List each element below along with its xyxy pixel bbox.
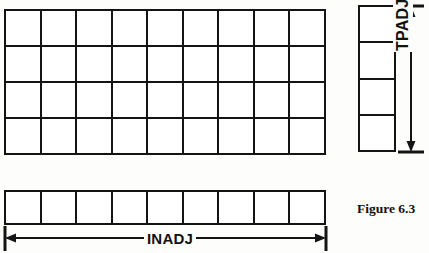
arrowhead-right-icon	[315, 234, 326, 243]
inadj-cell-row	[4, 190, 326, 225]
grid-cell	[255, 47, 291, 83]
grid-cell	[42, 192, 78, 225]
grid-cell	[42, 83, 78, 119]
inadj-label: INADJ	[144, 230, 196, 247]
tpadj-cell-column	[358, 5, 396, 152]
grid-cell	[148, 11, 184, 47]
grid-cell	[148, 192, 184, 225]
grid-cell	[113, 47, 149, 83]
grid-cell	[77, 119, 113, 155]
grid-cell	[113, 119, 149, 155]
grid-cell	[290, 47, 326, 83]
grid-cell	[255, 119, 291, 155]
grid-cell	[42, 11, 78, 47]
grid-cell	[255, 83, 291, 119]
grid-cell	[113, 192, 149, 225]
grid-cell	[255, 192, 291, 225]
grid-cell	[219, 11, 255, 47]
grid-cell	[77, 47, 113, 83]
grid-cell	[77, 11, 113, 47]
main-cell-array	[4, 9, 326, 155]
grid-cell	[77, 83, 113, 119]
grid-cell	[290, 119, 326, 155]
grid-cell	[42, 119, 78, 155]
grid-cell	[290, 192, 326, 225]
grid-cell	[148, 119, 184, 155]
arrowhead-down-icon	[407, 141, 416, 152]
grid-cell	[184, 83, 220, 119]
grid-cell	[6, 192, 42, 225]
figure-6-3: TPADJ INADJ Figure 6.3	[0, 0, 429, 253]
figure-caption: Figure 6.3	[357, 201, 415, 217]
grid-cell	[184, 11, 220, 47]
grid-cell	[113, 11, 149, 47]
grid-cell	[360, 43, 396, 79]
grid-cell	[360, 80, 396, 116]
grid-cell	[219, 83, 255, 119]
grid-cell	[290, 11, 326, 47]
grid-cell	[77, 192, 113, 225]
grid-cell	[360, 116, 396, 152]
grid-cell	[184, 119, 220, 155]
arrowhead-left-icon	[5, 234, 16, 243]
grid-cell	[6, 11, 42, 47]
grid-cell	[219, 119, 255, 155]
grid-cell	[219, 47, 255, 83]
grid-cell	[360, 7, 396, 43]
grid-cell	[148, 47, 184, 83]
grid-cell	[42, 47, 78, 83]
grid-cell	[290, 83, 326, 119]
grid-cell	[113, 83, 149, 119]
grid-cell	[219, 192, 255, 225]
grid-cell	[148, 83, 184, 119]
grid-cell	[184, 47, 220, 83]
grid-cell	[255, 11, 291, 47]
grid-cell	[184, 192, 220, 225]
grid-cell	[6, 47, 42, 83]
grid-cell	[6, 83, 42, 119]
grid-cell	[6, 119, 42, 155]
tpadj-label: TPADJ	[393, 0, 413, 52]
